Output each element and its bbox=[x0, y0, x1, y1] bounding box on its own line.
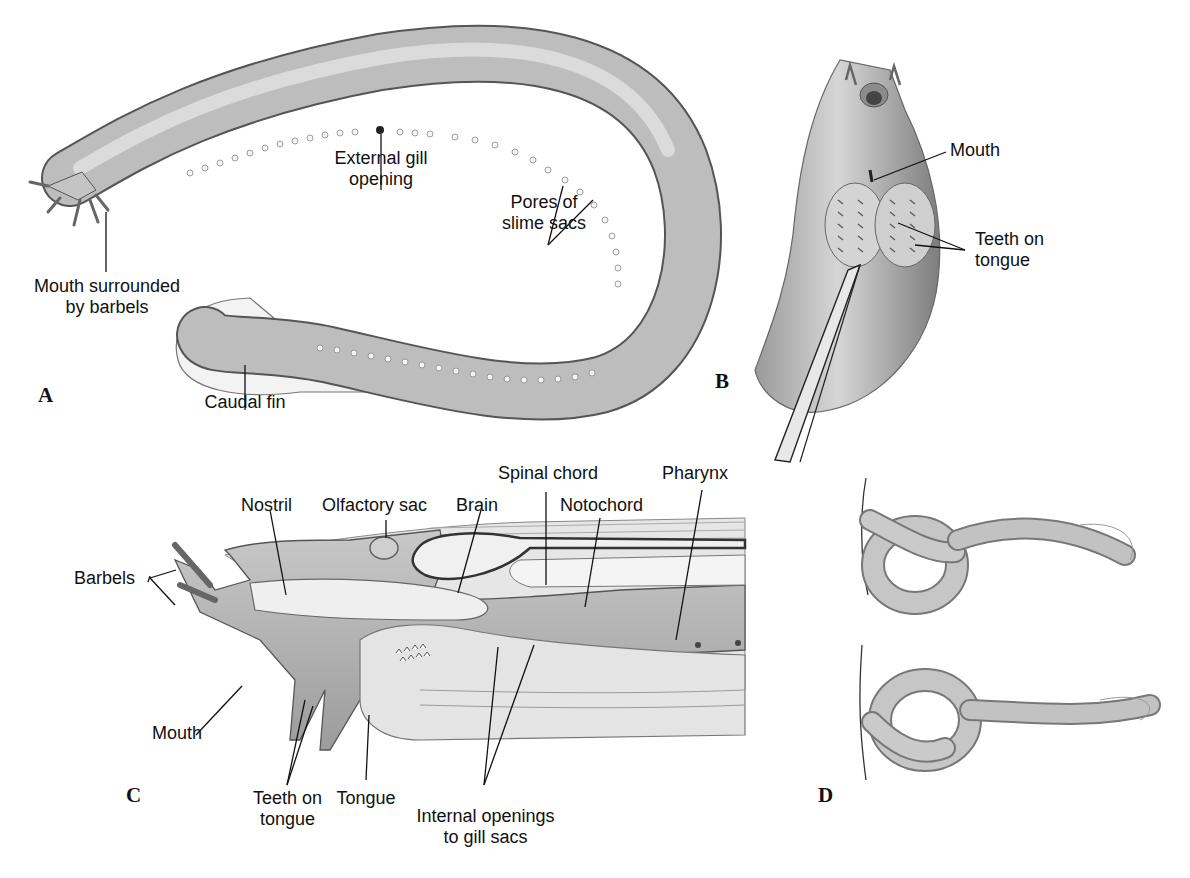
label-line: slime sacs bbox=[494, 213, 594, 234]
label-teeth-on-tongue-c: Teeth on tongue bbox=[245, 788, 330, 830]
panel-letter-d: D bbox=[818, 783, 833, 808]
label-brain: Brain bbox=[456, 495, 498, 516]
label-line: Internal openings bbox=[413, 806, 558, 827]
label-line: Teeth on bbox=[245, 788, 330, 809]
label-line: Pores of bbox=[494, 192, 594, 213]
panel-letter-b: B bbox=[715, 369, 729, 394]
label-notochord: Notochord bbox=[560, 495, 643, 516]
label-line: to gill sacs bbox=[413, 827, 558, 848]
panel-letter-c: C bbox=[126, 783, 141, 808]
external-gill-opening bbox=[376, 126, 384, 134]
hagfish-illustration bbox=[0, 0, 1190, 878]
label-mouth-b: Mouth bbox=[950, 140, 1000, 161]
label-line: tongue bbox=[975, 250, 1044, 271]
label-mouth-surrounded-by-barbels: Mouth surrounded by barbels bbox=[22, 276, 192, 318]
label-nostril: Nostril bbox=[241, 495, 292, 516]
label-teeth-on-tongue-b: Teeth on tongue bbox=[975, 229, 1044, 271]
label-line: Teeth on bbox=[975, 229, 1044, 250]
label-line: tongue bbox=[245, 809, 330, 830]
label-line: by barbels bbox=[22, 297, 192, 318]
label-pores-of-slime-sacs: Pores of slime sacs bbox=[494, 192, 594, 234]
panel-b-hagfish-head-ventral bbox=[755, 60, 965, 462]
label-olfactory-sac: Olfactory sac bbox=[322, 495, 427, 516]
label-barbels: Barbels bbox=[74, 568, 135, 589]
panel-d-hagfish-knotting bbox=[860, 478, 1150, 780]
label-pharynx: Pharynx bbox=[662, 463, 728, 484]
label-external-gill-opening: External gill opening bbox=[325, 148, 437, 190]
label-caudal-fin: Caudal fin bbox=[195, 392, 295, 413]
panel-letter-a: A bbox=[38, 383, 53, 408]
label-tongue: Tongue bbox=[330, 788, 402, 809]
label-internal-openings-to-gill-sacs: Internal openings to gill sacs bbox=[413, 806, 558, 848]
label-spinal-chord: Spinal chord bbox=[498, 463, 598, 484]
panel-c-hagfish-head-sagittal bbox=[148, 490, 745, 785]
label-line: External gill bbox=[325, 148, 437, 169]
label-mouth-c: Mouth bbox=[152, 723, 202, 744]
label-line: opening bbox=[325, 169, 437, 190]
label-line: Mouth surrounded bbox=[22, 276, 192, 297]
